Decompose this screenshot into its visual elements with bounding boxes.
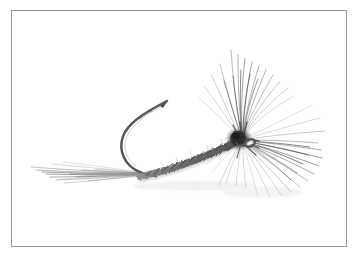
fishing-fly-illustration bbox=[0, 0, 359, 258]
hackle-collar bbox=[199, 50, 325, 197]
shadow bbox=[133, 181, 302, 198]
photograph-container: hand-tied dry fly with hackle on a barbe… bbox=[0, 0, 359, 258]
tail-fibers bbox=[31, 162, 142, 183]
